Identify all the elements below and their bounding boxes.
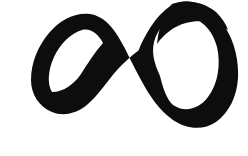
image-canvas <box>0 0 248 156</box>
infinity-symbol-drawing <box>0 0 248 156</box>
